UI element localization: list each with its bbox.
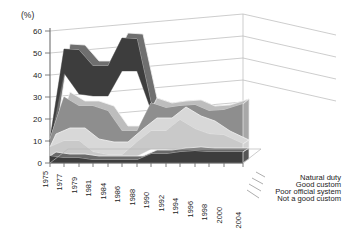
- x-tick-label-1975: 1975: [41, 171, 50, 187]
- x-tick-label-1992: 1992: [157, 195, 166, 211]
- legend-leader-poor-official-system: [249, 184, 261, 191]
- x-tick-label-1984: 1984: [99, 183, 108, 199]
- chart-canvas: (%) 60 50 40 30 20 10 0: [0, 0, 343, 239]
- gridline-60: [50, 14, 336, 35]
- x-tick-label-1988: 1988: [128, 189, 137, 205]
- y-tick-label-0: 0: [38, 159, 43, 168]
- x-tick-label-1990: 1990: [142, 192, 151, 208]
- y-tick-label-30: 30: [33, 93, 42, 102]
- gridline-40-side: [243, 58, 336, 79]
- y-tick-label-50: 50: [33, 49, 42, 58]
- x-tick-label-1977: 1977: [55, 174, 64, 190]
- legend-item-not-a-good-custom[interactable]: Not a good custom: [277, 194, 341, 203]
- y-axis-unit-label: (%): [21, 10, 34, 20]
- legend-leader-not-a-good-custom: [247, 190, 259, 198]
- x-tick-label-1981: 1981: [84, 180, 93, 196]
- x-tick-label-1986: 1986: [113, 186, 122, 202]
- chart-legend: Natural duty Good custom Poor official s…: [247, 172, 341, 203]
- x-tick-label-2004: 2004: [234, 212, 243, 228]
- y-tick-label-10: 10: [33, 137, 42, 146]
- y-tick-label-40: 40: [33, 71, 42, 80]
- gridline-30-side: [243, 80, 336, 101]
- y-tick-label-20: 20: [33, 115, 42, 124]
- x-tick-label-1996: 1996: [186, 201, 195, 217]
- legend-leader-natural-duty: [256, 172, 265, 177]
- y-axis: (%) 60 50 40 30 20 10 0: [21, 10, 50, 168]
- x-tick-label-1994: 1994: [171, 198, 180, 214]
- x-tick-label-1979: 1979: [70, 177, 79, 193]
- x-tick-label-2000: 2000: [215, 207, 224, 223]
- x-axis-labels: 1975 1977 1979 1981 1984 1986 1988 1990 …: [41, 171, 243, 228]
- y-tick-label-60: 60: [33, 27, 42, 36]
- stacked-area-chart-3d: (%) 60 50 40 30 20 10 0: [0, 0, 343, 239]
- legend-leader-good-custom: [252, 178, 263, 184]
- x-tick-label-1998: 1998: [200, 204, 209, 220]
- gridline-50-side: [243, 36, 336, 57]
